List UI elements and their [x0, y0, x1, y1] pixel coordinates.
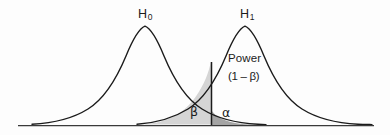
beta-region-fill: [137, 47, 214, 125]
h1-label: H1: [240, 8, 254, 21]
statistical-power-figure: H0 H1 Power (1 – β) β α: [0, 0, 390, 135]
h1-label-subscript: 1: [250, 12, 255, 22]
beta-region-label: β: [190, 106, 198, 119]
power-label: Power: [228, 53, 261, 65]
alpha-region-label: α: [222, 107, 230, 120]
h0-label: H0: [138, 8, 152, 21]
h0-label-subscript: 0: [148, 12, 153, 22]
h1-label-text: H: [240, 7, 249, 21]
power-expression-label: (1 – β): [228, 71, 259, 83]
h0-label-text: H: [138, 7, 147, 21]
